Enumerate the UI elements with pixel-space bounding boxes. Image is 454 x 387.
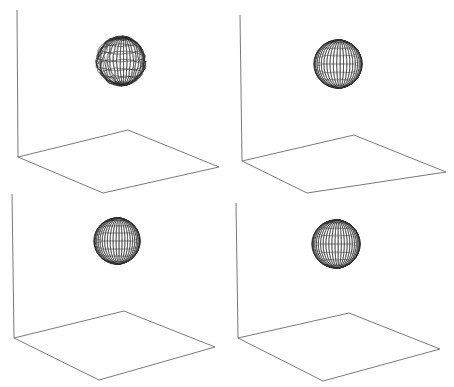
vertical-axis-line <box>240 15 242 161</box>
figure-canvas <box>0 0 454 387</box>
vertical-axis-line <box>236 203 238 338</box>
wireframe-sphere <box>94 218 140 264</box>
floor-plane <box>18 130 219 193</box>
floor-plane <box>14 311 215 380</box>
vertical-axis-line <box>17 10 18 157</box>
panel-top-right <box>240 15 446 193</box>
wireframe-sphere <box>95 36 146 86</box>
vertical-axis-line <box>12 194 14 338</box>
wireframe-sphere <box>314 40 362 88</box>
floor-plane <box>238 313 440 381</box>
wireframe-sphere <box>312 220 360 268</box>
floor-plane <box>242 135 446 193</box>
panel-bottom-right <box>236 203 440 381</box>
panel-bottom-left <box>12 194 215 380</box>
panel-top-left <box>17 10 219 193</box>
